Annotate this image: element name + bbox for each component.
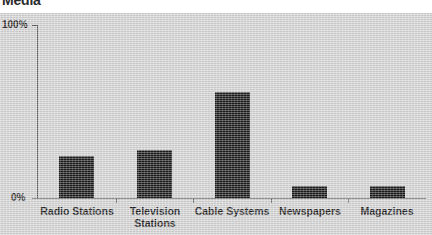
- x-tick-2: [193, 199, 194, 203]
- page-title: Media: [2, 0, 41, 8]
- bar-3: [215, 92, 250, 198]
- chart-screenshot: Media 100% 0% Radio StationsTelevision S…: [0, 0, 432, 235]
- category-label-3: Cable Systems: [193, 205, 271, 217]
- category-label-2: Television Stations: [116, 205, 194, 229]
- bar-2: [137, 150, 172, 198]
- chart-panel: 100% 0% Radio StationsTelevision Station…: [0, 13, 432, 235]
- bar-4: [292, 186, 327, 198]
- bar-5: [370, 186, 405, 198]
- y-axis-label-max: 100%: [2, 19, 28, 30]
- y-axis-line: [37, 25, 38, 199]
- x-axis-line: [32, 198, 426, 199]
- x-tick-4: [348, 199, 349, 203]
- category-label-5: Magazines: [348, 205, 426, 217]
- category-label-1: Radio Stations: [38, 205, 116, 217]
- bar-1: [59, 156, 94, 198]
- category-label-4: Newspapers: [271, 205, 349, 217]
- x-tick-3: [271, 199, 272, 203]
- y-axis-top-tick: [32, 25, 37, 26]
- y-axis-label-min: 0%: [11, 192, 25, 203]
- title-band: Media: [0, 0, 432, 13]
- x-tick-1: [116, 199, 117, 203]
